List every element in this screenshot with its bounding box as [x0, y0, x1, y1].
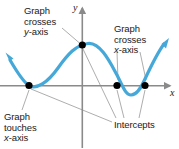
annotation-line-1: Graph	[24, 6, 56, 17]
annotation-line-3: y-axis	[24, 27, 56, 38]
point-tangent-x-intercept	[25, 82, 32, 89]
graph-intercepts-figure: y x Graph crosses y-axis Graph crosses x…	[0, 0, 179, 149]
annotation-graph-crosses-y-axis: Graph crosses y-axis	[24, 6, 56, 38]
annotation-line-1: Intercepts	[114, 120, 155, 131]
leader-line-intercepts-4	[139, 90, 145, 118]
y-axis-label: y	[73, 2, 77, 13]
point-x-intercept-left	[113, 82, 120, 89]
annotation-intercepts: Intercepts	[114, 120, 155, 131]
annotation-graph-touches-x-axis: Graph touches x-axis	[4, 112, 37, 144]
axis-suffix: -axis	[119, 44, 139, 55]
annotation-line-3: x-axis	[114, 45, 146, 56]
leader-line-intercepts-2	[83, 49, 116, 118]
axis-suffix: -axis	[9, 132, 29, 143]
leader-line-intercepts-1	[31, 89, 112, 122]
leader-line-touches-x	[22, 90, 29, 110]
x-axis-label: x	[170, 87, 174, 98]
axis-suffix: -axis	[29, 26, 49, 37]
annotation-graph-crosses-x-axis: Graph crosses x-axis	[114, 24, 146, 56]
point-x-intercept-right	[141, 82, 148, 89]
annotation-line-1: Graph	[114, 24, 146, 35]
annotation-line-3: x-axis	[4, 133, 37, 144]
leader-line-intercepts-3	[117, 90, 124, 118]
annotation-line-1: Graph	[4, 112, 37, 123]
point-y-intercept	[79, 41, 86, 48]
curve-arrow-left	[6, 53, 14, 62]
leader-line-crosses-y	[62, 28, 80, 43]
